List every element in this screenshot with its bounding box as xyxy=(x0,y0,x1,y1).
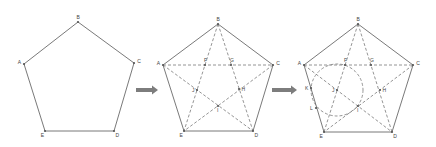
point-F-dot xyxy=(344,64,346,66)
point-label-D: D xyxy=(254,132,258,138)
arrow-head xyxy=(152,86,158,95)
point-label-E: E xyxy=(41,132,45,138)
point-B-dot xyxy=(217,23,219,25)
point-F-dot xyxy=(204,64,206,66)
diagram-canvas: ABCDEABCDEFGHIJABCDEFGHIJKL xyxy=(0,0,436,147)
point-label-D: D xyxy=(393,133,397,139)
point-label-J: J xyxy=(192,87,195,93)
point-label-L: L xyxy=(310,105,313,111)
point-B-dot xyxy=(357,23,359,25)
point-label-F: F xyxy=(204,57,207,63)
point-label-B: B xyxy=(76,14,80,20)
pentagon-construction-diagram: ABCDEABCDEFGHIJABCDEFGHIJKL xyxy=(0,0,436,147)
diagonal-BE xyxy=(184,24,218,131)
point-H-dot xyxy=(238,88,240,90)
point-label-G: G xyxy=(370,57,374,63)
pentagon-outline xyxy=(24,22,134,131)
point-label-H: H xyxy=(242,86,246,92)
point-A-dot xyxy=(303,64,305,66)
point-label-A: A xyxy=(298,60,302,66)
diagonal-AD xyxy=(163,65,253,131)
point-J-dot xyxy=(336,89,338,91)
point-L-dot xyxy=(315,107,317,109)
point-label-C: C xyxy=(416,60,420,66)
point-label-D: D xyxy=(115,132,119,138)
point-label-F: F xyxy=(344,57,347,63)
point-label-B: B xyxy=(216,16,220,22)
point-label-H: H xyxy=(383,87,387,93)
point-label-A: A xyxy=(18,59,22,65)
point-C-dot xyxy=(133,62,135,64)
point-label-I: I xyxy=(357,107,358,113)
point-label-B: B xyxy=(356,16,360,22)
point-label-J: J xyxy=(332,87,335,93)
diagonal-BD xyxy=(358,24,392,132)
point-A-dot xyxy=(23,63,25,65)
point-A-dot xyxy=(162,64,164,66)
point-J-dot xyxy=(196,89,198,91)
point-label-C: C xyxy=(276,60,280,66)
point-E-dot xyxy=(323,131,325,133)
point-C-dot xyxy=(412,64,414,66)
point-label-G: G xyxy=(230,57,234,63)
point-label-E: E xyxy=(320,133,324,139)
point-G-dot xyxy=(370,64,372,66)
diagonal-CE xyxy=(184,65,273,131)
panel-step2: ABCDEFGHIJ xyxy=(157,16,280,138)
panel-step3: ABCDEFGHIJKL xyxy=(298,16,420,139)
arrow-shaft xyxy=(272,88,291,92)
point-E-dot xyxy=(44,130,46,132)
diagonal-CE xyxy=(324,65,413,132)
diagonal-BD xyxy=(218,24,253,131)
arrow-shaft xyxy=(136,88,152,92)
point-label-E: E xyxy=(180,132,184,138)
step-arrow-1 xyxy=(136,86,158,95)
point-label-C: C xyxy=(137,58,141,64)
point-E-dot xyxy=(183,130,185,132)
point-G-dot xyxy=(230,64,232,66)
diagonal-AD xyxy=(304,65,392,132)
point-label-I: I xyxy=(217,107,218,113)
arrow-head xyxy=(291,86,297,95)
point-label-K: K xyxy=(305,85,309,91)
pentagon-outline xyxy=(304,24,413,132)
point-C-dot xyxy=(272,64,274,66)
point-H-dot xyxy=(379,89,381,91)
point-B-dot xyxy=(77,21,79,23)
panel-step1: ABCDE xyxy=(18,14,141,138)
point-K-dot xyxy=(310,87,312,89)
point-label-A: A xyxy=(157,60,161,66)
step-arrow-2 xyxy=(272,86,297,95)
